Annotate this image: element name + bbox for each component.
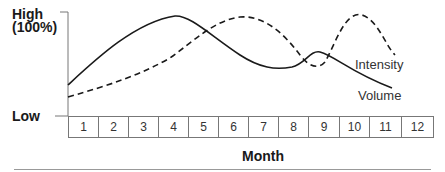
month-cell: 10 (340, 117, 370, 137)
month-cell: 2 (99, 117, 129, 137)
month-cell: 7 (249, 117, 279, 137)
month-cell: 11 (370, 117, 402, 137)
bottom-rule (14, 169, 431, 170)
month-cell: 3 (129, 117, 159, 137)
intensity-line (68, 15, 395, 97)
month-cell: 1 (69, 117, 99, 137)
month-cell: 9 (309, 117, 340, 137)
volume-label: Volume (358, 88, 401, 103)
month-cell: 12 (402, 117, 434, 137)
month-axis: 1 2 3 4 5 6 7 8 9 10 11 12 (68, 116, 434, 138)
month-cell: 8 (279, 117, 309, 137)
intensity-label: Intensity (355, 57, 403, 72)
chart-plot (0, 0, 445, 172)
x-axis-title: Month (218, 148, 308, 164)
month-cell: 5 (189, 117, 219, 137)
month-cell: 6 (219, 117, 249, 137)
month-cell: 4 (159, 117, 189, 137)
